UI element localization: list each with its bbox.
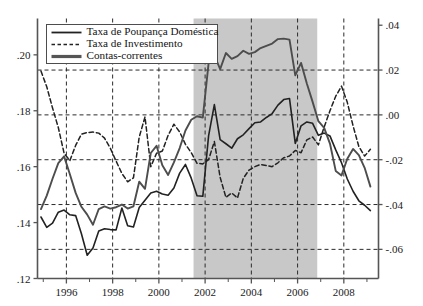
- legend-label-2: Contas-correntes: [87, 49, 163, 61]
- x-axis-tick-label-6: 2008: [333, 286, 356, 298]
- chart-container: .12.14.16.18.20-.06-.04-.02.00.02.041996…: [0, 0, 423, 306]
- y-axis-tick-label-3: .18: [17, 105, 31, 117]
- x-axis-tick-label-5: 2006: [287, 286, 310, 298]
- y2-axis-tick-label-5: .04: [386, 19, 400, 31]
- x-axis-tick-label-2: 2000: [148, 286, 171, 298]
- y-axis-tick-label-2: .16: [17, 161, 31, 173]
- x-axis-tick-label-3: 2002: [194, 286, 216, 298]
- legend: Taxa de Poupança DomésticaTaxa de Invest…: [47, 25, 219, 64]
- line-chart: .12.14.16.18.20-.06-.04-.02.00.02.041996…: [0, 0, 423, 306]
- legend-label-0: Taxa de Poupança Doméstica: [87, 25, 219, 37]
- y-axis-tick-label-0: .12: [17, 273, 31, 285]
- y-axis-tick-label-4: .20: [17, 49, 31, 61]
- y2-axis-tick-label-0: -.06: [386, 243, 404, 255]
- y2-axis-tick-label-1: -.04: [386, 199, 404, 211]
- y-axis-tick-label-1: .14: [17, 217, 31, 229]
- x-axis-tick-label-4: 2004: [240, 286, 263, 298]
- y2-axis-tick-label-2: -.02: [386, 154, 403, 166]
- y2-axis-tick-label-4: .02: [386, 64, 400, 76]
- x-axis-tick-label-1: 1998: [102, 286, 125, 298]
- y2-axis-tick-label-3: .00: [386, 109, 400, 121]
- legend-label-1: Taxa de Investimento: [87, 37, 184, 49]
- x-axis-tick-label-0: 1996: [55, 286, 78, 298]
